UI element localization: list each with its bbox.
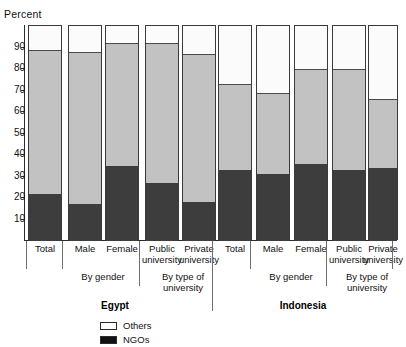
clipped-title-strip (0, 0, 406, 8)
bar-segment-ngos (333, 170, 365, 241)
bar-segment-ngos (106, 166, 138, 241)
bar-segment-middle (333, 69, 365, 170)
bar-segment-middle (257, 93, 289, 175)
category-label: Private university (361, 244, 405, 265)
bar-segment-others (219, 26, 251, 84)
bar-segment-middle (69, 52, 101, 205)
group-separator (326, 241, 327, 286)
stacked-bar (332, 25, 366, 240)
group-separator (139, 241, 140, 286)
bar-segment-middle (106, 43, 138, 166)
bar-segment-ngos (29, 194, 61, 241)
bar-segment-others (106, 26, 138, 43)
bar-segment-others (369, 26, 397, 99)
bar-segment-others (69, 26, 101, 52)
stacked-bar (105, 25, 139, 240)
bar-segment-others (333, 26, 365, 69)
subgroup-label: By gender (60, 272, 146, 283)
group-separator (250, 241, 251, 269)
group-separator (392, 241, 393, 269)
bar-segment-others (183, 26, 215, 54)
bar-segment-others (257, 26, 289, 93)
country-label: Egypt (60, 300, 170, 311)
bar-segment-others (146, 26, 178, 43)
y-tick-label: 80 (6, 63, 25, 73)
y-tick-label: 30 (6, 171, 25, 181)
legend-item-ngos: NGOs (100, 334, 152, 346)
y-tick-label: 90 (6, 42, 25, 52)
y-tick-label: 10 (6, 214, 25, 224)
y-tick-label: 70 (6, 85, 25, 95)
stacked-bar (182, 25, 216, 240)
stacked-bar (368, 25, 398, 240)
y-tick-label: 40 (6, 149, 25, 159)
y-tick-label: 20 (6, 192, 25, 202)
bar-segment-others (29, 26, 61, 50)
legend-label-ngos: NGOs (123, 335, 149, 345)
bar-segment-middle (146, 43, 178, 183)
bar-segment-ngos (69, 204, 101, 241)
bar-segment-ngos (219, 170, 251, 241)
subgroup-label: By type of university (140, 272, 226, 293)
chart-legend: Others NGOs (100, 320, 152, 347)
bar-segment-middle (295, 69, 327, 164)
stacked-bar (68, 25, 102, 240)
subgroup-label: By gender (248, 272, 334, 283)
square-filled-icon (100, 336, 117, 344)
bar-segment-middle (219, 84, 251, 170)
subgroup-label: By type of university (328, 272, 406, 293)
bar-segment-middle (183, 54, 215, 202)
legend-item-others: Others (100, 320, 152, 332)
stacked-bar (218, 25, 252, 240)
y-tick-label: 50 (6, 128, 25, 138)
y-tick-label: 60 (6, 106, 25, 116)
bar-segment-ngos (183, 202, 215, 241)
stacked-bar (28, 25, 62, 240)
y-axis-ticks: 908070605040302010 (0, 0, 25, 347)
group-separator (26, 241, 27, 269)
plot-area (25, 25, 391, 240)
bar-segment-middle (29, 50, 61, 194)
bar-segment-ngos (257, 174, 289, 241)
bar-segment-middle (369, 99, 397, 168)
bar-segment-ngos (146, 183, 178, 241)
group-separator (62, 241, 63, 269)
chart-figure: Percent 908070605040302010 TotalMaleFema… (0, 0, 406, 347)
square-outline-icon (100, 322, 117, 330)
bar-segment-others (295, 26, 327, 69)
legend-label-others: Others (123, 321, 152, 331)
stacked-bar (145, 25, 179, 240)
group-separator (212, 241, 213, 311)
stacked-bar (294, 25, 328, 240)
country-label: Indonesia (248, 300, 358, 311)
stacked-bar (256, 25, 290, 240)
bar-segment-ngos (295, 164, 327, 241)
bar-segment-ngos (369, 168, 397, 241)
